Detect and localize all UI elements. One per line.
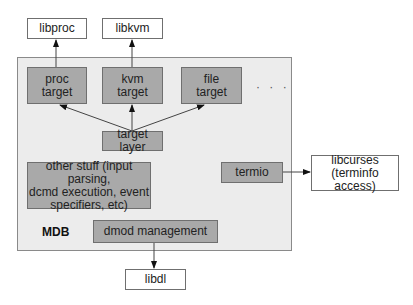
proc-target-box: proc target <box>27 67 87 104</box>
kvm-target-label-2: target <box>117 86 148 99</box>
libdl-box: libdl <box>125 269 186 290</box>
libcurses-sublabel: (terminfo access) <box>312 167 398 193</box>
file-target-label-2: target <box>196 86 227 99</box>
libproc-box: libproc <box>27 18 87 39</box>
proc-target-label-2: target <box>42 86 73 99</box>
other-stuff-box: other stuff (input parsing, dcmd executi… <box>27 162 151 209</box>
libcurses-box: libcurses (terminfo access) <box>311 155 399 191</box>
other-stuff-label-1: other stuff (input parsing, <box>28 160 150 186</box>
dmod-management-label: dmod management <box>104 225 207 238</box>
file-target-box: file target <box>181 67 242 104</box>
other-stuff-label-2: dcmd execution, event <box>29 186 149 199</box>
file-target-label-1: file <box>204 73 219 86</box>
kvm-target-label-1: kvm <box>122 73 144 86</box>
termio-label: termio <box>235 166 268 179</box>
libdl-label: libdl <box>145 273 166 286</box>
dmod-management-box: dmod management <box>93 220 218 243</box>
libcurses-label: libcurses <box>331 154 378 167</box>
target-layer-label: target layer <box>103 128 162 154</box>
more-targets-ellipsis: · · · <box>256 80 290 94</box>
libkvm-label: libkvm <box>115 22 149 35</box>
kvm-target-box: kvm target <box>102 67 163 104</box>
proc-target-label-1: proc <box>45 73 68 86</box>
other-stuff-label-3: specifiers, etc) <box>50 199 127 212</box>
libproc-label: libproc <box>39 22 74 35</box>
mdb-label: MDB <box>42 225 69 239</box>
termio-box: termio <box>221 162 283 183</box>
libkvm-box: libkvm <box>102 18 163 39</box>
target-layer-box: target layer <box>102 131 163 151</box>
